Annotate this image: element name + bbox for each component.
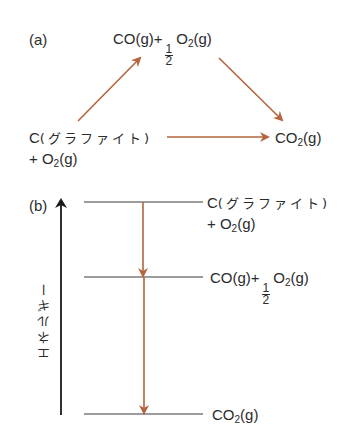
graphite-text: (グラファイト) — [40, 131, 152, 146]
species-co2: CO2(g) — [275, 129, 321, 151]
co-text: CO(g) — [113, 30, 154, 47]
plus-o-text: + O — [29, 150, 54, 167]
co-text: CO(g) — [210, 269, 251, 286]
species-c-graphite-o2: C(グラファイト) + O2(g) — [29, 129, 152, 172]
level-label-c-graphite: C(グラファイト) + O2(g) — [207, 194, 330, 237]
phase-text: (g) — [237, 215, 255, 232]
phase-text: (g) — [59, 150, 77, 167]
panel-a-label: (a) — [29, 31, 47, 48]
c-text: C — [207, 194, 218, 211]
energy-axis-label: エネルギー — [34, 270, 50, 360]
plus-sign: + — [154, 30, 163, 47]
c-text: C — [29, 129, 40, 146]
plus-o-text: + O — [207, 215, 232, 232]
level-label-co2: CO2(g) — [212, 406, 258, 428]
phase-text: (g) — [240, 406, 258, 423]
graphite-text: (グラファイト) — [218, 196, 330, 211]
co-text: CO — [212, 406, 235, 423]
species-co-half-o2: CO(g)+12O2(g) — [113, 30, 212, 67]
plus-sign: + — [251, 269, 260, 286]
arrow-c-to-co — [78, 58, 140, 121]
phase-text: (g) — [303, 129, 321, 146]
phase-text: (g) — [194, 30, 212, 47]
panel-b-label: (b) — [29, 197, 47, 214]
phase-text: (g) — [291, 269, 309, 286]
co-text: CO — [275, 129, 298, 146]
level-label-co: CO(g)+12O2(g) — [210, 269, 309, 306]
arrow-co-to-co2 — [219, 58, 282, 120]
fraction-one-half: 12 — [262, 283, 271, 306]
o-text: O — [176, 30, 188, 47]
o-text: O — [273, 269, 285, 286]
fraction-one-half: 12 — [165, 44, 174, 67]
